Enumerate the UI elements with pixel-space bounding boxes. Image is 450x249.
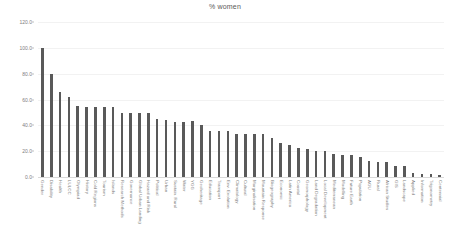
y-axis-tick-label: 120.0 <box>19 19 32 25</box>
y-axis-tick-label: 20.0 <box>22 148 32 154</box>
bar-slot <box>126 22 135 177</box>
x-axis-label-slot: Population <box>356 179 365 249</box>
bar-slot <box>179 22 188 177</box>
bar <box>112 107 115 177</box>
x-axis-tick-label: Information <box>420 180 425 203</box>
bar <box>94 107 97 177</box>
x-axis-tick-label: Modelling <box>340 180 345 199</box>
x-axis-label-slot: African Studies <box>382 179 391 249</box>
bar <box>279 143 282 177</box>
x-axis-tick-label: LULCC <box>66 180 71 195</box>
x-axis-label-slot: Tourism <box>100 179 109 249</box>
x-axis-label-slot: Political <box>153 179 162 249</box>
bar-slot <box>197 22 206 177</box>
x-axis-tick-label: Biogeography <box>269 180 274 208</box>
x-axis-tick-label: Population <box>358 180 363 201</box>
x-axis: GenderDisabilityHealthLULCCOlympiadHisto… <box>38 179 444 249</box>
bar-slot <box>64 22 73 177</box>
x-axis-tick-label: Geomorphology <box>305 180 310 212</box>
bar <box>76 106 79 177</box>
bar-slot <box>215 22 224 177</box>
bar <box>121 113 124 177</box>
bar <box>41 48 44 177</box>
x-axis-tick-label: Geoheritage <box>199 180 204 205</box>
bar-slot <box>312 22 321 177</box>
bar-slot <box>162 22 171 177</box>
bar-slot <box>329 22 338 177</box>
bar <box>138 113 141 177</box>
y-axis-tick-label: 100.0 <box>19 45 32 51</box>
x-axis-label-slot: Local Development <box>321 179 330 249</box>
x-axis-label-slot: Education <box>206 179 215 249</box>
bar-slot <box>153 22 162 177</box>
x-axis-line <box>38 177 444 178</box>
x-axis-tick-label: Olympiad <box>75 180 80 199</box>
x-axis-label-slot: Disability <box>47 179 56 249</box>
x-axis-tick-label: Marginalisation <box>252 180 257 210</box>
bar-slot <box>38 22 47 177</box>
bar-slot <box>338 22 347 177</box>
y-axis: 0.020.040.060.080.0100.0120.0 <box>0 22 34 177</box>
x-axis-label-slot: AGU <box>365 179 374 249</box>
x-axis-label-slot: Applied <box>409 179 418 249</box>
x-axis-label-slot: Cold Regions <box>91 179 100 249</box>
bar-slot <box>232 22 241 177</box>
bar <box>368 161 371 177</box>
bar <box>271 138 274 177</box>
x-axis-label-slot: Latin America <box>285 179 294 249</box>
x-axis-tick-label: Urban <box>164 180 169 192</box>
bar-slot <box>303 22 312 177</box>
x-axis-label-slot: Modelling <box>338 179 347 249</box>
x-axis-label-slot: Governance <box>126 179 135 249</box>
y-axis-tick <box>32 151 34 152</box>
x-axis-tick-label: Climatology <box>234 180 239 204</box>
bar <box>209 131 212 178</box>
bar <box>165 120 168 177</box>
bar <box>288 145 291 177</box>
y-axis-tick <box>32 125 34 126</box>
x-axis-label-slot: Landscape <box>400 179 409 249</box>
x-axis-tick-label: Future Earth <box>349 180 354 205</box>
bar-slot <box>170 22 179 177</box>
x-axis-label-slot: Urban <box>162 179 171 249</box>
x-axis-label-slot: Mountain Response <box>259 179 268 249</box>
bar-slot <box>223 22 232 177</box>
bar-slot <box>400 22 409 177</box>
x-axis-tick-label: Latin America <box>287 180 292 207</box>
x-axis-label-slot: Mediterranean <box>329 179 338 249</box>
bar <box>306 149 309 177</box>
x-axis-label-slot: Future Earth <box>347 179 356 249</box>
bar-slot <box>250 22 259 177</box>
bar <box>438 175 441 177</box>
y-axis-tick <box>32 99 34 100</box>
x-axis-label-slot: Information <box>418 179 427 249</box>
x-axis-label-slot: History <box>82 179 91 249</box>
bar-slot <box>268 22 277 177</box>
bar-chart: % women 0.020.040.060.080.0100.0120.0 Ge… <box>0 0 450 249</box>
bar-slot <box>435 22 444 177</box>
bar <box>412 173 415 177</box>
x-axis-label-slot: Research Methods <box>117 179 126 249</box>
bar <box>85 107 88 177</box>
bar-slot <box>188 22 197 177</box>
bar <box>235 134 238 177</box>
x-axis-tick-label: Cold Regions <box>93 180 98 207</box>
bar <box>350 155 353 177</box>
y-axis-tick-label: 60.0 <box>22 97 32 103</box>
x-axis-label-slot: GIS <box>391 179 400 249</box>
y-axis-tick-label: 0.0 <box>25 174 32 180</box>
x-axis-label-slot: Geoheritage <box>197 179 206 249</box>
bar-slot <box>135 22 144 177</box>
bar-slot <box>259 22 268 177</box>
x-axis-tick-label: GIS <box>393 180 398 188</box>
x-axis-label-slot: Climatology <box>232 179 241 249</box>
x-axis-label-slot: YGG <box>188 179 197 249</box>
x-axis-label-slot: Water <box>179 179 188 249</box>
x-axis-label-slot: Trigonometry <box>426 179 435 249</box>
x-axis-tick-label: Mediterranean <box>331 180 336 209</box>
bar <box>50 74 53 177</box>
bar-slot <box>82 22 91 177</box>
x-axis-label-slot: Economic <box>276 179 285 249</box>
x-axis-tick-label: Mountain Response <box>261 180 266 220</box>
x-axis-tick-label: Landscape <box>402 180 407 202</box>
